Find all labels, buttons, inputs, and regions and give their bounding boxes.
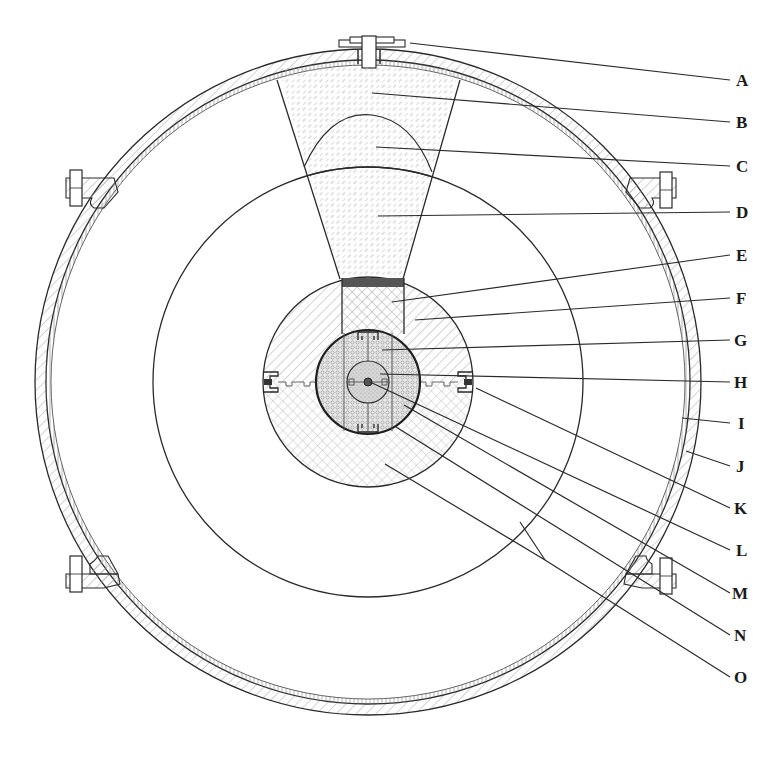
label-d: D xyxy=(736,203,748,222)
labels: A B C D E F G H I J K L M N O xyxy=(732,71,749,687)
label-m: M xyxy=(732,584,748,603)
inner-core xyxy=(347,361,389,403)
label-e: E xyxy=(736,246,747,265)
label-b: B xyxy=(736,113,747,132)
dark-band xyxy=(342,278,404,287)
label-i: I xyxy=(738,414,745,433)
label-k: K xyxy=(734,499,748,518)
vessel-cross-section-diagram: A B C D E F G H I J K L M N O xyxy=(0,0,782,760)
label-g: G xyxy=(734,331,747,350)
label-f: F xyxy=(736,289,746,308)
label-o: O xyxy=(734,668,747,687)
label-n: N xyxy=(734,626,747,645)
label-l: L xyxy=(736,541,747,560)
label-a: A xyxy=(736,71,749,90)
label-h: H xyxy=(734,373,747,392)
label-c: C xyxy=(736,157,748,176)
leader-d xyxy=(378,212,730,216)
label-j: J xyxy=(736,457,745,476)
